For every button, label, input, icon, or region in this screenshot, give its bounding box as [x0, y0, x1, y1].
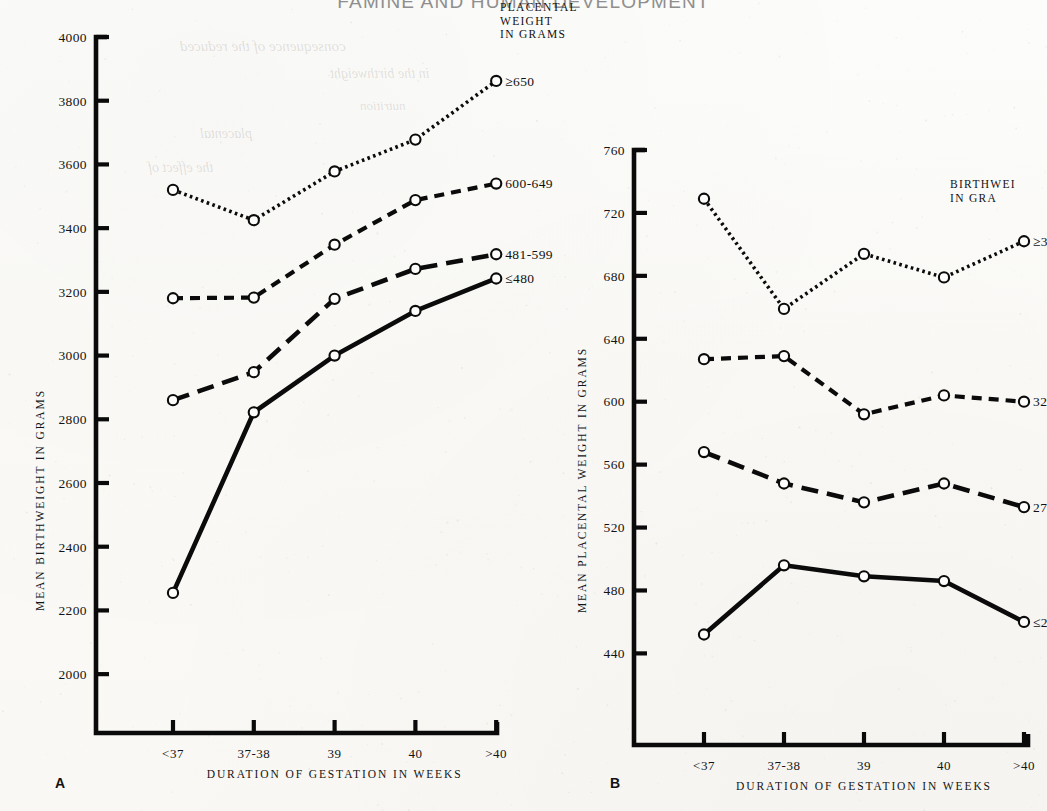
svg-text:2600: 2600: [58, 476, 87, 491]
svg-text:BIRTHWEI: BIRTHWEI: [950, 178, 1016, 190]
svg-text:760: 760: [604, 143, 625, 158]
svg-text:600: 600: [604, 394, 625, 409]
svg-text:3600: 3600: [58, 157, 87, 172]
svg-text:2800: 2800: [58, 412, 87, 427]
panel-b-letter: B: [610, 775, 620, 791]
svg-text:≤480: ≤480: [505, 271, 534, 286]
svg-text:IN GRAMS: IN GRAMS: [500, 28, 566, 40]
svg-text:37-38: 37-38: [237, 746, 270, 761]
svg-text:2781-3: 2781-3: [1033, 500, 1047, 515]
svg-text:560: 560: [604, 457, 625, 472]
svg-text:37-38: 37-38: [768, 758, 801, 773]
svg-text:≤2780: ≤2780: [1033, 615, 1047, 630]
svg-text:3000: 3000: [58, 348, 87, 363]
svg-text:39: 39: [857, 758, 871, 773]
panel-a: 2000220024002600280030003200340036003800…: [0, 0, 560, 811]
svg-text:481-599: 481-599: [505, 247, 553, 262]
svg-text:480: 480: [604, 583, 625, 598]
svg-text:DURATION OF GESTATION IN WEEKS: DURATION OF GESTATION IN WEEKS: [736, 780, 992, 792]
panel-a-letter: A: [55, 775, 65, 791]
svg-text:520: 520: [604, 520, 625, 535]
svg-text:40: 40: [408, 746, 422, 761]
svg-text:40: 40: [937, 758, 951, 773]
svg-text:3290-3: 3290-3: [1033, 394, 1047, 409]
svg-text:3400: 3400: [58, 221, 87, 236]
svg-text:≥3660: ≥3660: [1033, 234, 1047, 249]
svg-text:720: 720: [604, 206, 625, 221]
svg-text:MEAN PLACENTAL WEIGHT IN GRAMS: MEAN PLACENTAL WEIGHT IN GRAMS: [576, 347, 588, 613]
svg-text:WEIGHT: WEIGHT: [500, 15, 553, 27]
svg-text:<37: <37: [693, 758, 715, 773]
svg-text:640: 640: [604, 332, 625, 347]
chart-b: 440480520560600640680720760<3737-383940>…: [560, 0, 1047, 811]
chart-a: 2000220024002600280030003200340036003800…: [0, 0, 560, 811]
svg-text:2400: 2400: [58, 540, 87, 555]
svg-text:440: 440: [604, 646, 625, 661]
svg-text:2000: 2000: [58, 667, 87, 682]
svg-text:<37: <37: [162, 746, 184, 761]
svg-text:3200: 3200: [58, 285, 87, 300]
svg-text:DURATION OF GESTATION IN WEEKS: DURATION OF GESTATION IN WEEKS: [207, 768, 463, 780]
svg-text:2200: 2200: [58, 603, 87, 618]
panel-b: 440480520560600640680720760<3737-383940>…: [560, 0, 1047, 811]
svg-text:≥650: ≥650: [505, 74, 534, 89]
svg-text:>40: >40: [1013, 758, 1035, 773]
svg-text:4000: 4000: [58, 30, 87, 45]
svg-text:39: 39: [328, 746, 342, 761]
svg-text:>40: >40: [485, 746, 507, 761]
svg-text:3800: 3800: [58, 94, 87, 109]
svg-text:600-649: 600-649: [505, 176, 553, 191]
svg-text:IN GRA: IN GRA: [950, 192, 997, 204]
svg-text:680: 680: [604, 269, 625, 284]
svg-text:MEAN BIRTHWEIGHT IN GRAMS: MEAN BIRTHWEIGHT IN GRAMS: [34, 389, 46, 611]
